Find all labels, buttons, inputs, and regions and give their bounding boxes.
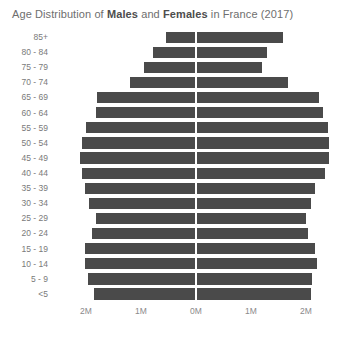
bar-male xyxy=(166,32,195,43)
x-tick-label: 2M xyxy=(80,306,92,316)
pyramid-row: 40 - 44 xyxy=(0,166,345,181)
pyramid-row: 35 - 39 xyxy=(0,181,345,196)
population-pyramid-chart: Age Distribution of Males and Females in… xyxy=(0,0,345,340)
bar-female xyxy=(197,168,325,179)
bar-female xyxy=(197,228,308,239)
pyramid-row: 60 - 64 xyxy=(0,106,345,121)
bar-female xyxy=(197,243,315,254)
bar-male xyxy=(85,183,195,194)
bar-female xyxy=(197,107,323,118)
pyramid-row: 45 - 49 xyxy=(0,151,345,166)
bar-band xyxy=(0,196,345,211)
bar-male xyxy=(92,228,195,239)
pyramid-row: 30 - 34 xyxy=(0,196,345,211)
bar-female xyxy=(197,32,283,43)
pyramid-row: 25 - 29 xyxy=(0,211,345,226)
pyramid-row: 20 - 24 xyxy=(0,226,345,241)
bar-band xyxy=(0,60,345,75)
bar-band xyxy=(0,90,345,105)
x-tick-label: 1M xyxy=(245,306,257,316)
bar-band xyxy=(0,106,345,121)
bar-male xyxy=(82,137,195,148)
x-tick-label: 1M xyxy=(135,306,147,316)
bar-male xyxy=(94,288,195,299)
chart-title: Age Distribution of Males and Females in… xyxy=(12,8,293,20)
bar-female xyxy=(197,152,329,163)
bar-male xyxy=(153,47,195,58)
pyramid-row: <5 xyxy=(0,287,345,302)
bar-male xyxy=(85,243,195,254)
pyramid-row: 65 - 69 xyxy=(0,90,345,105)
bar-male xyxy=(96,107,195,118)
chart-title-emphasis: Females xyxy=(163,8,208,20)
pyramid-row: 15 - 19 xyxy=(0,242,345,257)
bar-male xyxy=(130,77,195,88)
bar-female xyxy=(197,47,267,58)
bar-female xyxy=(197,62,262,73)
bar-band xyxy=(0,272,345,287)
bar-band xyxy=(0,30,345,45)
plot-area: 85+80 - 8475 - 7970 - 7465 - 6960 - 6455… xyxy=(0,30,345,302)
pyramid-row: 5 - 9 xyxy=(0,272,345,287)
x-tick-label: 0M xyxy=(190,306,202,316)
bar-band xyxy=(0,151,345,166)
bar-female xyxy=(197,258,317,269)
pyramid-row: 55 - 59 xyxy=(0,121,345,136)
bar-male xyxy=(97,92,195,103)
pyramid-row: 70 - 74 xyxy=(0,75,345,90)
bar-band xyxy=(0,75,345,90)
bar-male xyxy=(86,122,195,133)
pyramid-row: 85+ xyxy=(0,30,345,45)
chart-title-emphasis: Males xyxy=(107,8,138,20)
bar-female xyxy=(197,77,288,88)
bar-male xyxy=(144,62,195,73)
bar-band xyxy=(0,226,345,241)
bar-female xyxy=(197,198,311,209)
bar-female xyxy=(197,137,329,148)
bar-male xyxy=(80,152,195,163)
pyramid-row: 80 - 84 xyxy=(0,45,345,60)
bar-male xyxy=(96,213,195,224)
bar-male xyxy=(82,168,195,179)
bar-band xyxy=(0,242,345,257)
bar-band xyxy=(0,287,345,302)
pyramid-row: 75 - 79 xyxy=(0,60,345,75)
x-tick-label: 2M xyxy=(300,306,312,316)
bar-band xyxy=(0,181,345,196)
bar-band xyxy=(0,45,345,60)
bar-band xyxy=(0,166,345,181)
bar-band xyxy=(0,121,345,136)
x-axis: 2M1M0M1M2M xyxy=(0,306,345,326)
chart-title-text: Age Distribution of xyxy=(12,8,107,20)
center-axis-divider xyxy=(195,30,197,302)
bar-band xyxy=(0,136,345,151)
chart-title-text: and xyxy=(138,8,163,20)
bar-female xyxy=(197,183,315,194)
bar-female xyxy=(197,213,306,224)
bar-female xyxy=(197,288,311,299)
bar-male xyxy=(88,273,195,284)
bar-female xyxy=(197,122,328,133)
chart-title-text: in France (2017) xyxy=(208,8,293,20)
bar-band xyxy=(0,257,345,272)
bar-female xyxy=(197,273,312,284)
pyramid-row: 50 - 54 xyxy=(0,136,345,151)
bar-male xyxy=(85,258,195,269)
pyramid-row: 10 - 14 xyxy=(0,257,345,272)
bar-female xyxy=(197,92,319,103)
bar-band xyxy=(0,211,345,226)
bar-male xyxy=(89,198,195,209)
